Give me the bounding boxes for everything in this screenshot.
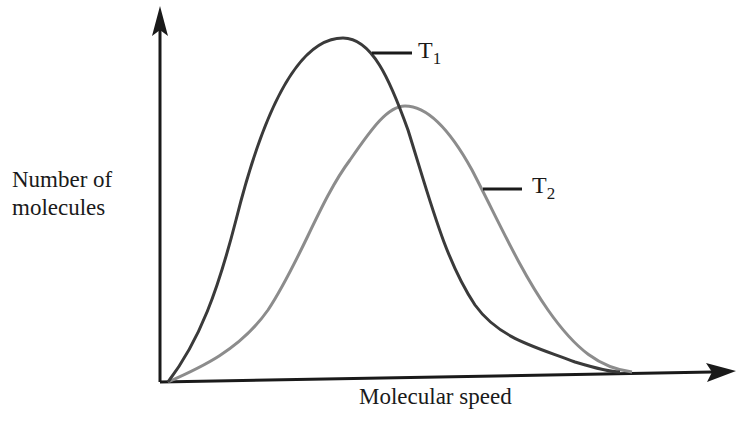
y-axis-label: Number of molecules (12, 166, 112, 222)
x-axis-label: Molecular speed (359, 384, 512, 410)
y-axis-label-line2: molecules (12, 194, 112, 222)
y-axis-label-line1: Number of (12, 166, 112, 194)
t2-label: T2 (532, 172, 555, 203)
curve-t1 (168, 38, 620, 382)
x-axis (160, 372, 712, 382)
t1-label: T1 (418, 37, 441, 68)
curve-t2 (168, 106, 632, 382)
